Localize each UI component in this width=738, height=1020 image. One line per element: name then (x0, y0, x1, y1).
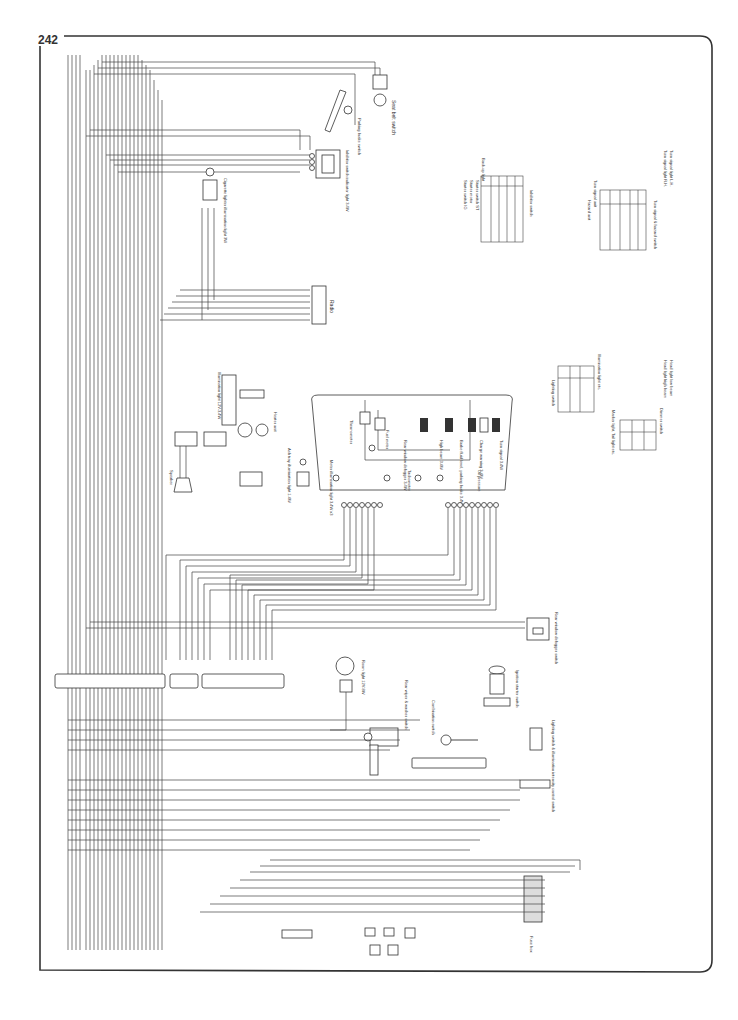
svg-text:Head light high beam: Head light high beam (663, 360, 668, 398)
svg-text:Turn signal 3.4W: Turn signal 3.4W (499, 440, 504, 470)
svg-text:Room light 12V-8W: Room light 12V-8W (361, 660, 366, 695)
lighting-switch-table: Lighting switch Illumination light etc. … (551, 354, 616, 455)
svg-text:Starter switch ST: Starter switch ST (475, 180, 480, 211)
svg-text:Oil pressure: Oil pressure (477, 470, 482, 492)
svg-text:Marker light, Tail light etc.: Marker light, Tail light etc. (611, 410, 616, 455)
svg-text:Combination switch: Combination switch (431, 700, 436, 735)
fuse-box: Fuse box (200, 860, 580, 952)
svg-text:Illumination light 12V-3.4W: Illumination light 12V-3.4W (217, 372, 222, 420)
parking-brake-switch: Parking brake switch (325, 90, 362, 155)
svg-text:Dimmer switch: Dimmer switch (659, 408, 664, 434)
svg-text:Turn signal unit: Turn signal unit (593, 180, 598, 208)
svg-text:Thermometer: Thermometer (349, 420, 354, 445)
svg-text:Parking brake switch: Parking brake switch (357, 118, 362, 155)
svg-text:Back-up light: Back-up light (481, 158, 486, 182)
svg-text:Heater unit: Heater unit (273, 412, 278, 432)
svg-text:Lighting switch & illumination: Lighting switch & illumination intensity… (551, 720, 556, 812)
combination-switch: Combination switch (412, 700, 486, 768)
rear-wiper-washer-switch: Rear wiper & washer switch (364, 680, 409, 775)
seat-belt-switch: Seat belt switch (373, 75, 397, 135)
turn-signal-hazard-table: Hazard unit Turn signal unit Turn signal… (587, 150, 674, 250)
inhibitor-indicator-light: Inhibitor switch indicator light 3.4W (310, 150, 351, 212)
svg-text:Rear wiper & washer switch: Rear wiper & washer switch (404, 680, 409, 729)
svg-text:Inhibitor switch: Inhibitor switch (529, 190, 534, 216)
lighting-switch-control: Lighting switch & illumination intensity… (520, 720, 556, 812)
svg-text:Starter motor: Starter motor (469, 180, 474, 204)
svg-text:Turn signal light L.H.: Turn signal light L.H. (669, 150, 674, 187)
dimmer-switch-table: Dimmer switch Head light high beam Head … (620, 360, 674, 450)
svg-text:Meter illumination light 3.4W: Meter illumination light 3.4W x3 (329, 460, 334, 516)
svg-text:Fuel meter: Fuel meter (385, 430, 390, 450)
svg-text:Starter switch IG: Starter switch IG (463, 180, 468, 210)
svg-text:Seat belt switch: Seat belt switch (391, 100, 397, 135)
svg-text:Rear window defogger switch: Rear window defogger switch (554, 612, 559, 664)
svg-text:Speaker: Speaker (169, 470, 174, 486)
rear-window-defogger-switch: Rear window defogger switch (86, 612, 559, 664)
svg-text:Turn signal & hazard switch: Turn signal & hazard switch (653, 200, 658, 249)
main-connector-strip (55, 674, 284, 688)
svg-text:Illumination light etc.: Illumination light etc. (597, 354, 602, 390)
svg-text:Cigarette lighter illumination: Cigarette lighter illumination light 3W (223, 178, 228, 243)
svg-text:Radio: Radio (329, 300, 335, 313)
svg-text:Ash tray illumination light 1.: Ash tray illumination light 1.4W (287, 448, 292, 503)
ignition-starter-switch: Ignition starter switch (484, 666, 520, 708)
wiring-diagram: Seat belt switch Parking brake switch In… (0, 0, 738, 1020)
cigarette-lighter: Cigarette lighter illumination light 3W (202, 168, 228, 320)
vertical-bus-wires (68, 55, 162, 950)
svg-text:Turn signal light R.H.: Turn signal light R.H. (663, 150, 668, 187)
inhibitor-switch-table: Starter switch IG Starter motor Starter … (463, 158, 534, 242)
svg-text:Hazard unit: Hazard unit (587, 200, 592, 221)
svg-text:Ignition starter switch: Ignition starter switch (515, 670, 520, 708)
radio: Radio (160, 286, 335, 324)
svg-text:Inhibitor switch indicator lig: Inhibitor switch indicator light 3.4W (345, 150, 350, 212)
svg-text:Fuse box: Fuse box (529, 936, 534, 952)
svg-text:Head light low beam: Head light low beam (669, 360, 674, 397)
meter-harness (166, 508, 496, 660)
svg-text:Lighting switch: Lighting switch (551, 380, 556, 406)
room-light: Room light 12V-8W (330, 657, 366, 730)
bottom-connectors (282, 928, 415, 955)
svg-text:High beam 3.4W: High beam 3.4W (439, 440, 444, 470)
meter-cluster: Thermometer Fuel meter Rear window defog… (312, 395, 513, 516)
heater-illumination-group: Illumination light 12V-3.4W Heater unit … (169, 372, 309, 503)
svg-text:Brake fluid level, parking bra: Brake fluid level, parking brake 3.4W (459, 440, 464, 505)
lower-harness-mesh (68, 720, 520, 850)
svg-text:Tachometer: Tachometer (407, 470, 412, 492)
